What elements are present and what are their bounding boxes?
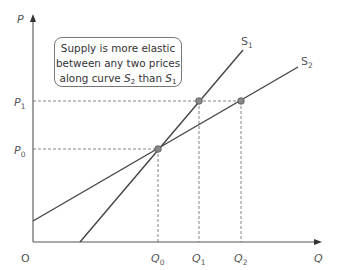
s2-curve <box>33 67 298 221</box>
q0-label: Q0 <box>151 252 165 267</box>
s1-label: S1 <box>241 35 253 50</box>
y-axis-arrow-icon <box>30 14 36 22</box>
x-axis-label: Q <box>314 252 323 265</box>
p1-label: P1 <box>14 96 26 111</box>
annotation-line-3: along curve S2 than S1 <box>55 71 181 90</box>
origin-label: O <box>21 252 30 265</box>
s2-label: S2 <box>301 55 313 70</box>
p0-label: P0 <box>14 144 26 159</box>
annotation-box: Supply is more elastic between any two p… <box>54 37 182 87</box>
x-axis-arrow-icon <box>314 239 322 245</box>
s2-point-p1 <box>238 98 245 105</box>
annotation-line-1: Supply is more elastic <box>55 41 181 56</box>
q2-label: Q2 <box>234 252 248 267</box>
y-axis-label: P <box>17 13 24 26</box>
guide-lines <box>33 101 241 242</box>
annotation-line-2: between any two prices <box>55 56 181 71</box>
equilibrium-point <box>155 146 162 153</box>
q1-label: Q1 <box>192 252 206 267</box>
s1-point-p1 <box>196 98 203 105</box>
